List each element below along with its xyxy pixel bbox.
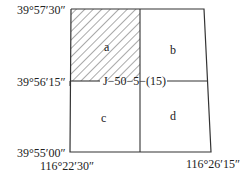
cell-c-label: c [101, 112, 106, 124]
latitude-bottom-label: 39°55′00″ [17, 147, 65, 159]
latitude-middle-label: 39°56′15″ [17, 76, 65, 88]
cell-a-label: a [104, 41, 109, 53]
latitude-top-label: 39°57′30″ [17, 4, 65, 16]
cell-d-label: d [170, 110, 176, 122]
cell-b-label: b [170, 44, 176, 56]
sheet-number-label: J−50−5−(15) [103, 75, 166, 87]
longitude-right-label: 116°26′15″ [186, 158, 240, 170]
longitude-left-label: 116°22′30″ [40, 160, 94, 172]
